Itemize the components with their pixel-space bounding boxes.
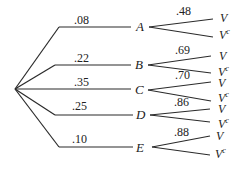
outcome-D-V: V bbox=[218, 102, 227, 116]
prob-D: .25 bbox=[72, 99, 87, 113]
prob-E: .10 bbox=[72, 132, 87, 146]
prob-B: .22 bbox=[74, 51, 89, 65]
node-B: B bbox=[135, 57, 143, 72]
prob-A-V: .48 bbox=[176, 4, 191, 18]
prob-C: .35 bbox=[74, 75, 89, 89]
outcome-C-V: V bbox=[218, 76, 227, 90]
outcome-A-V: V bbox=[220, 11, 229, 25]
node-C: C bbox=[135, 82, 144, 97]
nodes: A B C D E bbox=[135, 19, 146, 155]
prob-D-V: .86 bbox=[174, 95, 189, 109]
node-A: A bbox=[135, 19, 144, 34]
outcome-E-Vc: Vc bbox=[215, 146, 226, 161]
prob-E-V: .88 bbox=[174, 125, 189, 139]
node-D: D bbox=[135, 107, 146, 122]
prob-C-V: .70 bbox=[175, 68, 190, 82]
level1-probs: .08 .22 .35 .25 .10 bbox=[72, 13, 89, 146]
outcome-B-V: V bbox=[219, 49, 228, 63]
outcomes: V Vc V Vc V Vc V Vc V Vc bbox=[215, 11, 230, 161]
probability-tree: .08 .22 .35 .25 .10 A B C D E .48 .69 .7… bbox=[0, 0, 243, 171]
outcome-E-V: V bbox=[216, 129, 225, 143]
prob-A: .08 bbox=[74, 13, 89, 27]
node-E: E bbox=[135, 140, 144, 155]
prob-B-V: .69 bbox=[175, 43, 190, 57]
outcome-A-Vc: Vc bbox=[219, 27, 230, 42]
